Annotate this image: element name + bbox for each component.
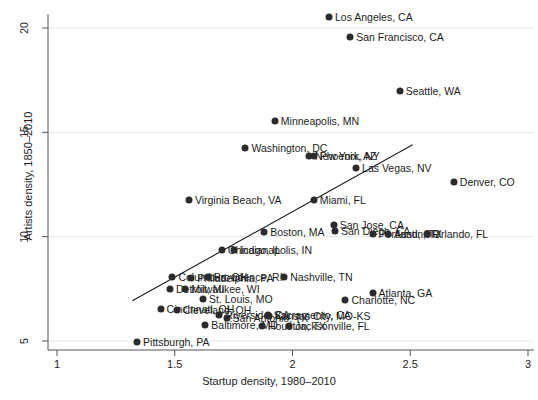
x-tick-label: 2 (289, 358, 295, 370)
data-point-label: Sacramento, CA (274, 309, 351, 320)
data-point-label: Miami, FL (320, 195, 366, 206)
data-point-marker (423, 230, 430, 237)
data-point-marker (261, 229, 268, 236)
data-point-marker (174, 306, 181, 313)
data-point-label: Seattle, WA (406, 85, 461, 96)
data-point-marker (230, 247, 237, 254)
data-point-marker (157, 305, 164, 312)
y-axis-title: Artists density, 1850–2010 (22, 96, 34, 256)
data-point-label: Charlotte, NC (351, 295, 415, 306)
data-point-label: Jacksonville, FL (295, 321, 370, 332)
data-point-marker (202, 322, 209, 329)
y-tick-label: 5 (18, 331, 30, 351)
data-point-marker (182, 285, 189, 292)
data-point-marker (281, 274, 288, 281)
data-point-marker (310, 197, 317, 204)
x-tick-label: 2.5 (403, 358, 418, 370)
data-point-marker (353, 164, 360, 171)
data-point-label: Pittsburgh, PA (143, 337, 209, 348)
data-point-marker (216, 311, 223, 318)
data-point-marker (326, 13, 333, 20)
data-point-label: Phoenix, AZ (320, 151, 377, 162)
data-point-label: Providence, RI (214, 272, 283, 283)
data-point-label: Denver, CO (460, 177, 515, 188)
data-point-marker (218, 247, 225, 254)
data-point-marker (342, 297, 349, 304)
data-point-label: Minneapolis, MN (281, 115, 359, 126)
data-point-marker (167, 285, 174, 292)
data-point-label: Las Vegas, NV (362, 162, 431, 173)
data-point-marker (271, 117, 278, 124)
data-point-marker (134, 339, 141, 346)
data-point-marker (204, 274, 211, 281)
data-point-marker (242, 144, 249, 151)
data-point-marker (285, 323, 292, 330)
y-tick-label: 20 (18, 18, 30, 38)
data-point-label: Nashville, TN (290, 272, 352, 283)
data-point-marker (396, 87, 403, 94)
x-axis-title: Startup density, 1980–2010 (0, 375, 538, 387)
x-tick-label: 1.5 (167, 358, 182, 370)
tick-marks (42, 28, 528, 356)
data-point-marker (331, 228, 338, 235)
data-point-marker (347, 34, 354, 41)
data-point-marker (185, 197, 192, 204)
data-point-marker (369, 230, 376, 237)
data-point-label: Orlando, FL (433, 228, 488, 239)
data-point-marker (264, 311, 271, 318)
data-point-marker (258, 323, 265, 330)
x-tick-label: 1 (54, 358, 60, 370)
data-point-label: Los Angeles, CA (335, 11, 413, 22)
scatter-chart: Los Angeles, CASan Francisco, CASeattle,… (0, 0, 538, 400)
data-point-label: San Francisco, CA (356, 32, 444, 43)
data-point-label: Boston, MA (270, 227, 324, 238)
data-point-marker (310, 153, 317, 160)
data-point-label: Virginia Beach, VA (195, 195, 282, 206)
data-point-marker (169, 274, 176, 281)
data-point-label: Indianapolis, IN (240, 245, 312, 256)
data-point-marker (188, 275, 195, 282)
data-point-marker (384, 230, 391, 237)
x-tick-label: 3 (525, 358, 531, 370)
data-point-marker (450, 179, 457, 186)
